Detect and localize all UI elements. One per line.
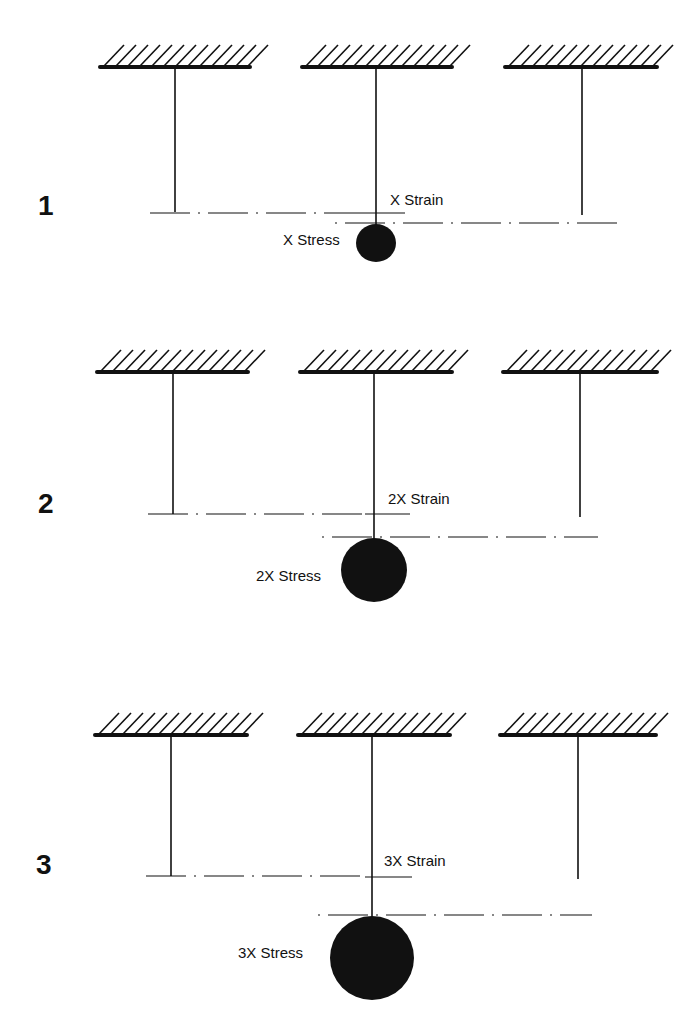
ceiling-support [300,350,468,372]
ceiling-support [298,713,466,735]
ceiling-support [500,713,668,735]
ceiling-support [302,45,470,67]
ceiling-support [100,45,268,67]
strain-label: X Strain [390,191,443,208]
panel-1: 1X StrainX Stress [38,45,673,262]
ceiling-support [505,45,673,67]
stress-label: 2X Stress [256,567,321,584]
panel-number: 1 [38,190,54,221]
weight-ball [341,538,407,602]
ceiling-support [503,350,671,372]
panel-2: 22X Strain2X Stress [38,350,671,602]
weight-ball [330,916,414,1000]
stress-strain-diagram: 1X StrainX Stress22X Strain2X Stress33X … [0,0,687,1026]
panel-3: 33X Strain3X Stress [36,713,668,1000]
ceiling-support [95,713,263,735]
strain-label: 2X Strain [388,490,450,507]
panel-number: 3 [36,849,52,880]
strain-label: 3X Strain [384,852,446,869]
stress-label: X Stress [283,231,340,248]
weight-ball [356,224,396,262]
ceiling-support [97,350,265,372]
panel-number: 2 [38,488,54,519]
stress-label: 3X Stress [238,944,303,961]
